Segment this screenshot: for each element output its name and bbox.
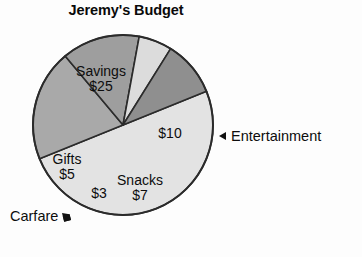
triangle-up-right-icon: [62, 211, 71, 221]
triangle-left-icon: [219, 132, 226, 140]
callout-entertainment-label: Entertainment: [231, 128, 321, 144]
callout-entertainment: Entertainment: [219, 128, 321, 144]
callout-carfare-label: Carfare: [10, 208, 58, 224]
pie-chart-figure: Jeremy's Budget Savings $25 $10 Snacks $…: [0, 0, 362, 257]
callout-carfare: Carfare: [10, 208, 70, 224]
